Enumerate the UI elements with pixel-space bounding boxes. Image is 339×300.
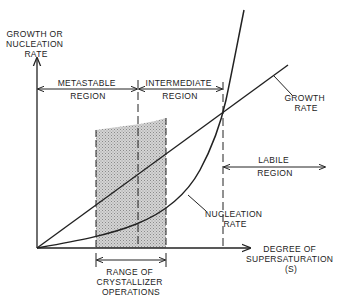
nucleation-rate-leader xyxy=(188,195,206,211)
nucleation-rate-label: NUCLEATION RATE xyxy=(205,209,265,229)
y-axis-label: GROWTH OR NUCLEATION RATE xyxy=(6,29,66,59)
growth-rate-label: GROWTH RATE xyxy=(284,93,327,113)
crystallizer-operating-range-shading xyxy=(96,118,166,248)
operating-range-label: RANGE OF CRYSTALLIZER OPERATIONS xyxy=(97,267,166,297)
crystallization-diagram: GROWTH OR NUCLEATION RATE METASTABLE REG… xyxy=(0,0,339,300)
x-axis-label: DEGREE OF SUPERSATURATION (S) xyxy=(246,244,336,274)
